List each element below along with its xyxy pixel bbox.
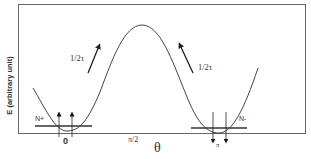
transition-arrow-right-icon: [180, 45, 193, 73]
x-axis-label: θ: [154, 141, 161, 155]
plot-frame: [19, 5, 306, 134]
x-tick-pi-half: π/2: [128, 136, 138, 144]
state-label-n-plus: N+: [35, 115, 44, 122]
x-tick-pi: π: [216, 142, 220, 149]
transition-arrow-left-icon: [88, 46, 99, 73]
x-tick-zero: 0: [63, 137, 68, 146]
transition-label-right: 1/2τ: [198, 63, 212, 72]
state-label-n-minus: N-: [239, 115, 246, 122]
energy-diagram: [0, 0, 311, 159]
transition-label-left: 1/2τ: [70, 54, 84, 63]
energy-curve: [33, 25, 258, 133]
y-axis-label: E (arbitrary unit): [2, 40, 16, 130]
